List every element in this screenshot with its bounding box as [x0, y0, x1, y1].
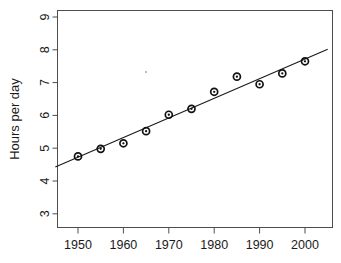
- y-axis-tick-label: 8: [38, 46, 52, 53]
- chart-container: Hours per day 3456789 195019601970198019…: [0, 0, 341, 263]
- data-point: [233, 73, 240, 80]
- x-axis-tick-label: 1990: [246, 238, 274, 252]
- y-axis-tick-marks: [53, 17, 58, 214]
- y-axis-tick-label: 6: [38, 112, 52, 119]
- y-axis-tick-label: 7: [38, 79, 52, 86]
- data-point: [120, 140, 127, 147]
- data-point: [279, 70, 286, 77]
- x-axis-tick-label: 1980: [200, 238, 228, 252]
- scatter-plot-svg: Hours per day 3456789 195019601970198019…: [0, 0, 341, 263]
- data-point: [165, 111, 172, 118]
- y-axis-tick-label: 5: [38, 145, 52, 152]
- y-axis-tick-labels: 3456789: [38, 13, 52, 217]
- data-point: [143, 128, 150, 135]
- y-axis-title: Hours per day: [7, 78, 22, 160]
- plot-frame: [58, 11, 333, 228]
- y-axis-tick-label: 4: [38, 177, 52, 184]
- x-axis-tick-label: 2000: [291, 238, 319, 252]
- x-axis-tick-marks: [78, 228, 305, 234]
- x-axis-tick-label: 1970: [155, 238, 183, 252]
- scan-speck-artifact: [145, 71, 147, 73]
- data-point: [256, 81, 263, 88]
- data-point: [211, 88, 218, 95]
- x-axis-tick-label: 1960: [109, 238, 137, 252]
- y-axis-tick-label: 3: [38, 210, 52, 217]
- x-axis-tick-label: 1950: [64, 238, 92, 252]
- x-axis-tick-labels: 195019601970198019902000: [64, 238, 319, 252]
- y-axis-tick-label: 9: [38, 13, 52, 20]
